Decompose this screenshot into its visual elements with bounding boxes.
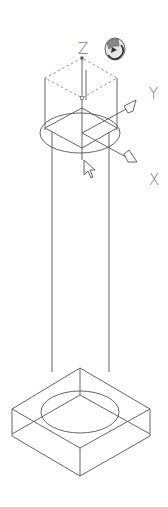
- x-axis-arrow[interactable]: [82, 133, 137, 162]
- gizmo-bounding-box: [45, 58, 117, 130]
- y-axis-arrow[interactable]: [82, 100, 136, 133]
- x-axis-label: X: [149, 171, 159, 189]
- 3d-viewport[interactable]: Z Y X: [0, 0, 168, 507]
- z-axis[interactable]: [81, 57, 87, 134]
- z-axis-label: Z: [78, 40, 88, 58]
- y-axis-label: Y: [149, 85, 158, 103]
- base-ellipse: [41, 391, 119, 433]
- orbit-rotate-icon[interactable]: [105, 38, 125, 60]
- base-block: [12, 368, 150, 476]
- mouse-cursor: [84, 160, 95, 178]
